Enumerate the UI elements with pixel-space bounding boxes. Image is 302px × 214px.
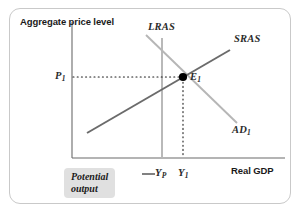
sras-curve-label: SRAS — [234, 33, 261, 45]
equilibrium-label-subscript: 1 — [197, 75, 201, 84]
potential-output-tick-label-text: Y — [155, 167, 162, 178]
potential-output-callout-line1: Potential — [71, 171, 108, 183]
price-level-tick-label-text: P — [55, 70, 62, 81]
ad1-curve-label-subscript: 1 — [247, 128, 251, 137]
sras-curve — [87, 50, 230, 133]
potential-output-callout: Potential output — [64, 168, 115, 198]
price-level-tick-label-subscript: 1 — [62, 74, 66, 83]
potential-output-tick-label: YP — [155, 167, 166, 179]
equilibrium-output-tick-label-text: Y — [178, 167, 185, 178]
equilibrium-point-e1 — [179, 73, 187, 81]
equilibrium-output-tick-label: Y1 — [178, 167, 189, 179]
lras-curve-label: LRAS — [148, 21, 175, 33]
price-level-tick-label: P1 — [55, 70, 66, 82]
equilibrium-output-tick-label-subscript: 1 — [185, 171, 189, 180]
potential-output-tick-label-subscript: P — [162, 171, 167, 180]
figure-container: Aggregate price level Real GDP LRAS SRAS… — [0, 0, 302, 214]
equilibrium-label: E1 — [190, 71, 201, 83]
y-axis-title: Aggregate price level — [20, 17, 74, 28]
x-axis-title: Real GDP — [231, 166, 274, 177]
potential-output-callout-line2: output — [71, 183, 108, 195]
ad1-curve-label: AD1 — [232, 124, 251, 136]
ad1-curve-label-text: AD — [232, 124, 247, 135]
